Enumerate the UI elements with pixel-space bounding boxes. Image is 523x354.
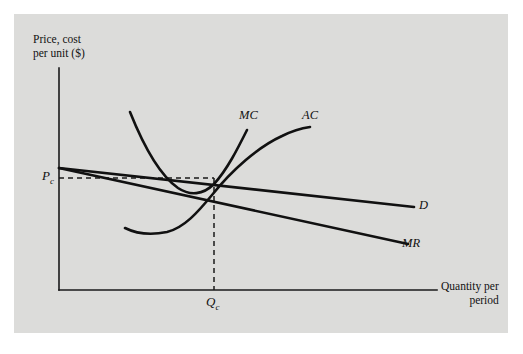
figure-screenshot: Price, costper unit ($) Quantity perperi… [0, 0, 523, 354]
competitive-quantity-subscript: c [215, 302, 219, 312]
y-axis-label-line1: Price, cost [33, 33, 81, 45]
x-axis-label-line1: Quantity per [441, 280, 499, 292]
y-axis-label-line2: per unit ($) [33, 47, 85, 59]
marginal-revenue-label: MR [402, 236, 420, 251]
demand-curve [59, 168, 414, 207]
competitive-price-symbol: P [42, 168, 50, 183]
marginal-cost-label: MC [239, 108, 258, 123]
competitive-price-label: Pc [42, 168, 54, 186]
y-axis-label: Price, costper unit ($) [33, 33, 85, 60]
competitive-quantity-label: Qc [206, 294, 219, 312]
x-axis-label-line2: period [469, 294, 498, 306]
x-axis-label: Quantity perperiod [441, 280, 499, 307]
competitive-quantity-symbol: Q [206, 294, 215, 309]
average-cost-label: AC [302, 108, 318, 123]
competitive-price-subscript: c [50, 176, 54, 186]
demand-label: D [419, 198, 428, 213]
marginal-revenue-curve [59, 168, 408, 244]
